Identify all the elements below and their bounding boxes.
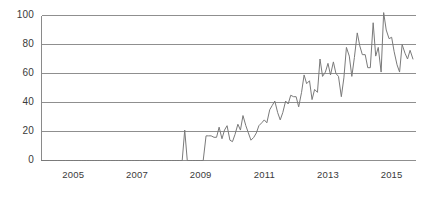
y-tick-label-40: 40 xyxy=(0,97,34,107)
line-chart: 020406080100 200520072009201120132015 xyxy=(0,0,432,215)
gridlines xyxy=(42,16,416,161)
data-series-line xyxy=(42,13,413,161)
x-tick-label-2013: 2013 xyxy=(306,170,350,180)
x-tick-label-2005: 2005 xyxy=(51,170,95,180)
x-tick-label-2007: 2007 xyxy=(115,170,159,180)
y-tick-label-80: 80 xyxy=(0,39,34,49)
y-tick-label-60: 60 xyxy=(0,68,34,78)
chart-plot-area xyxy=(0,0,432,215)
x-tick-label-2015: 2015 xyxy=(370,170,414,180)
y-tick-label-20: 20 xyxy=(0,126,34,136)
y-tick-label-100: 100 xyxy=(0,10,34,20)
y-tick-label-0: 0 xyxy=(0,155,34,165)
x-tick-label-2009: 2009 xyxy=(179,170,223,180)
x-tick-label-2011: 2011 xyxy=(242,170,286,180)
